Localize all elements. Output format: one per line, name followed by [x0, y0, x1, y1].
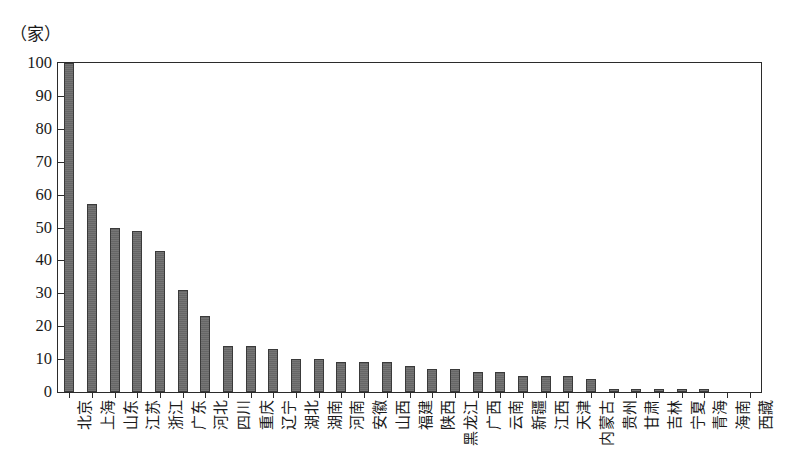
x-tick-mark [636, 393, 637, 398]
x-tick-mark [659, 393, 660, 398]
x-category-label: 四川 [236, 399, 252, 474]
bar [178, 290, 188, 392]
bar [405, 366, 415, 392]
bar [291, 359, 301, 392]
x-category-label: 河南 [349, 399, 365, 474]
bar [110, 228, 120, 393]
y-tick-label: 70 [0, 154, 52, 170]
bar [541, 376, 551, 392]
bar [495, 372, 505, 392]
x-category-label: 上海 [100, 399, 116, 474]
bar [654, 389, 664, 392]
x-tick-mark [523, 393, 524, 398]
bars-layer [58, 63, 761, 392]
x-tick-mark [364, 393, 365, 398]
x-tick-mark [410, 393, 411, 398]
x-tick-mark [115, 393, 116, 398]
y-tick-label: 40 [0, 252, 52, 268]
x-tick-mark [341, 393, 342, 398]
bar [268, 349, 278, 392]
x-category-label: 安徽 [372, 399, 388, 474]
x-axis-labels: 北京上海山东江苏浙江广东河北四川重庆辽宁湖北湖南河南安徽山西福建陕西黑龙江广西云… [58, 399, 761, 474]
x-category-label: 天津 [576, 399, 592, 474]
x-tick-mark [183, 393, 184, 398]
x-tick-mark [387, 393, 388, 398]
x-tick-mark [160, 393, 161, 398]
x-category-label: 甘肃 [644, 399, 660, 474]
x-category-label: 广东 [191, 399, 207, 474]
x-tick-mark [319, 393, 320, 398]
y-tick-label: 80 [0, 121, 52, 137]
x-category-label: 重庆 [259, 399, 275, 474]
x-tick-mark [205, 393, 206, 398]
x-tick-mark [750, 393, 751, 398]
x-category-label: 北京 [77, 399, 93, 474]
bar [518, 376, 528, 392]
x-category-label: 吉林 [667, 399, 683, 474]
bar [246, 346, 256, 392]
y-tick-label: 0 [0, 384, 52, 400]
bar [155, 251, 165, 392]
bar [87, 204, 97, 392]
x-tick-mark [568, 393, 569, 398]
x-tick-mark [704, 393, 705, 398]
x-tick-mark [682, 393, 683, 398]
x-tick-mark [69, 393, 70, 398]
x-category-label: 湖北 [304, 399, 320, 474]
x-category-label: 陕西 [440, 399, 456, 474]
bar [450, 369, 460, 392]
x-category-label: 山西 [395, 399, 411, 474]
x-tick-mark [432, 393, 433, 398]
bar [609, 389, 619, 392]
x-category-label: 辽宁 [281, 399, 297, 474]
x-tick-mark [500, 393, 501, 398]
x-category-label: 广西 [486, 399, 502, 474]
bar [132, 231, 142, 392]
x-category-label: 湖南 [327, 399, 343, 474]
bar [314, 359, 324, 392]
x-tick-mark [455, 393, 456, 398]
x-category-label: 浙江 [168, 399, 184, 474]
x-category-label: 宁夏 [690, 399, 706, 474]
x-category-label: 西藏 [758, 399, 774, 474]
x-tick-mark [591, 393, 592, 398]
y-tick-label: 30 [0, 285, 52, 301]
bar [586, 379, 596, 392]
bar [64, 63, 74, 392]
x-tick-mark [478, 393, 479, 398]
y-tick-label: 90 [0, 88, 52, 104]
bar [200, 316, 210, 392]
x-tick-mark [727, 393, 728, 398]
x-category-label: 海南 [735, 399, 751, 474]
y-tick-label: 100 [0, 55, 52, 71]
x-category-label: 江苏 [145, 399, 161, 474]
bar [223, 346, 233, 392]
x-category-label: 新疆 [531, 399, 547, 474]
x-category-label: 黑龙江 [463, 399, 479, 474]
x-category-label: 贵州 [622, 399, 638, 474]
x-category-label: 江西 [554, 399, 570, 474]
x-category-label: 河北 [213, 399, 229, 474]
y-tick-label: 50 [0, 220, 52, 236]
x-tick-mark [273, 393, 274, 398]
x-category-label: 内蒙古 [599, 399, 615, 474]
x-tick-mark [251, 393, 252, 398]
bar [336, 362, 346, 392]
bar [563, 376, 573, 392]
x-tick-mark [614, 393, 615, 398]
bar [677, 389, 687, 392]
bar [427, 369, 437, 392]
x-category-label: 福建 [418, 399, 434, 474]
bar [699, 389, 709, 392]
x-category-label: 青海 [712, 399, 728, 474]
y-tick-label: 60 [0, 187, 52, 203]
y-axis-ticks: 0102030405060708090100 [0, 50, 52, 410]
bar [631, 389, 641, 392]
x-tick-mark [137, 393, 138, 398]
x-category-label: 山东 [123, 399, 139, 474]
bar [359, 362, 369, 392]
bar-chart-figure: （家） 0102030405060708090100 北京上海山东江苏浙江广东河… [0, 0, 791, 474]
y-tick-label: 10 [0, 351, 52, 367]
x-category-label: 云南 [508, 399, 524, 474]
x-tick-mark [546, 393, 547, 398]
